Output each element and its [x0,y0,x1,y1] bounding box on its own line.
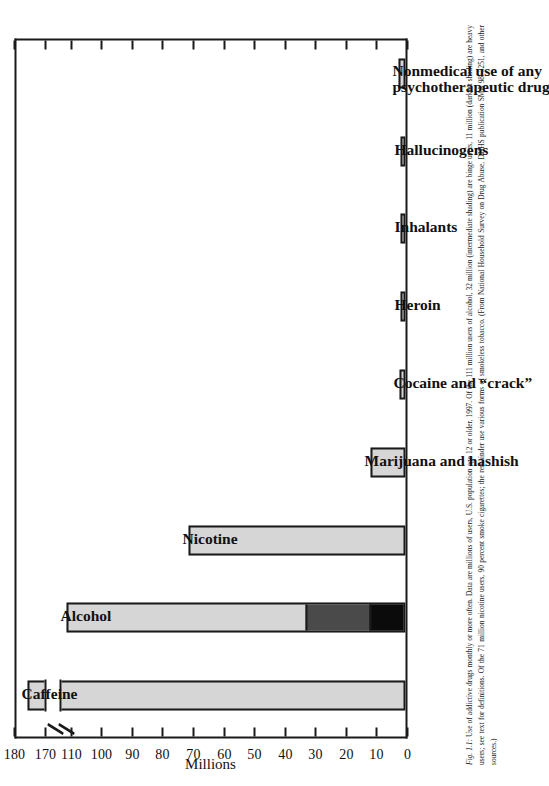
axis-tick-label: 60 [216,746,230,762]
axis-tick [223,727,225,736]
bar-segment-heavy [369,604,403,630]
plot-area: CaffeineAlcoholNicotineMarijuana and has… [14,38,407,738]
axis-frame-right [14,38,407,40]
axis-tick-label: 180 [3,746,25,762]
axis-tick [314,727,316,736]
axis-tick-label: 20 [339,746,353,762]
axis-frame-top [14,38,16,738]
figure-label: Fig. 1.1: [465,737,474,765]
axis-tick [406,40,408,49]
axis-tick [406,727,408,736]
axis-tick [44,727,46,736]
axis-tick [375,40,377,49]
axis-tick [223,40,225,49]
axis-tick [161,727,163,736]
axis-tick [13,727,15,736]
axis-tick [131,40,133,49]
axis-frame-left [14,736,407,738]
axis-tick-label: 80 [155,746,169,762]
axis-tick-label: 170 [34,746,56,762]
axis-tick-label: 30 [308,746,322,762]
axis-tick [284,40,286,49]
figure-caption-text: Use of addictive drugs monthly or more o… [465,25,498,765]
axis-tick [100,40,102,49]
axis-tick [345,727,347,736]
axis-tick-label: 90 [125,746,139,762]
axis-tick [13,40,15,49]
axis-tick-label: 110 [60,746,81,762]
axis-tick [70,40,72,49]
axis-tick [100,727,102,736]
axis-tick-label: 0 [403,746,410,762]
axis-break-right-icon [50,713,72,739]
bar [27,680,405,710]
axis-tick [253,727,255,736]
axis-tick-label: 70 [186,746,200,762]
axis-tick [345,40,347,49]
axis-tick [192,40,194,49]
axis-tick [192,727,194,736]
axis-tick [161,40,163,49]
axis-tick [284,727,286,736]
bar-label: Nicotine [182,529,237,547]
axis-tick-label: 100 [91,746,113,762]
bar-label: Alcohol [60,606,111,624]
figure-caption: Fig. 1.1: Use of addictive drugs monthly… [464,25,500,765]
axis-tick [253,40,255,49]
axis-tick-label: 40 [278,746,292,762]
bar-label: Heroin [394,295,440,313]
axis-tick-label: 10 [369,746,383,762]
bar [66,602,405,632]
bar-label: Caffeine [21,684,77,702]
axis-tick [44,40,46,49]
axis-tick [314,40,316,49]
axis-tick-label: 50 [247,746,261,762]
axis-tick [131,727,133,736]
caption-region: Fig. 1.1: Use of addictive drugs monthly… [443,0,521,786]
axis-tick [375,727,377,736]
